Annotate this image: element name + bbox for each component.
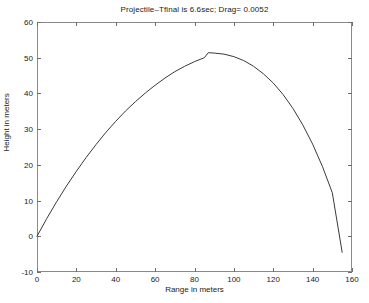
x-tick-label: 120: [267, 275, 280, 284]
plot-area: -100102030405060 020406080100120140160: [37, 22, 352, 272]
y-tick-label: 60: [24, 18, 33, 27]
x-tick-mark: [273, 268, 274, 272]
x-tick-mark-top: [352, 22, 353, 26]
x-tick-label: 160: [345, 275, 358, 284]
y-tick-mark-right: [348, 58, 352, 59]
x-tick-label: 0: [35, 275, 39, 284]
x-tick-mark: [352, 268, 353, 272]
y-tick-mark-right: [348, 129, 352, 130]
trajectory-polyline: [37, 53, 342, 253]
y-tick-mark: [37, 201, 41, 202]
x-tick-label: 60: [151, 275, 160, 284]
x-tick-label: 100: [227, 275, 240, 284]
x-tick-mark: [116, 268, 117, 272]
y-tick-mark-right: [348, 93, 352, 94]
y-tick-mark: [37, 272, 41, 273]
x-tick-label: 140: [306, 275, 319, 284]
y-tick-label: -10: [21, 268, 33, 277]
x-tick-mark: [155, 268, 156, 272]
x-axis-label: Range in meters: [37, 285, 352, 294]
y-tick-mark: [37, 236, 41, 237]
x-tick-mark-top: [273, 22, 274, 26]
y-tick-mark-right: [348, 272, 352, 273]
x-tick-mark-top: [76, 22, 77, 26]
figure-canvas: Projectile–Tfinal is 6.6sec; Drag= 0.005…: [0, 0, 369, 303]
x-tick-mark: [37, 268, 38, 272]
y-tick-mark-right: [348, 165, 352, 166]
x-tick-mark-top: [116, 22, 117, 26]
y-tick-mark: [37, 93, 41, 94]
y-tick-label: 40: [24, 89, 33, 98]
y-tick-label: 50: [24, 53, 33, 62]
x-tick-label: 40: [111, 275, 120, 284]
x-tick-label: 80: [190, 275, 199, 284]
y-tick-mark: [37, 165, 41, 166]
x-tick-mark: [76, 268, 77, 272]
y-tick-label: 20: [24, 160, 33, 169]
x-tick-mark-top: [37, 22, 38, 26]
y-axis-label: Height in meters: [2, 93, 11, 151]
y-tick-label: 0: [29, 232, 33, 241]
x-tick-mark: [195, 268, 196, 272]
chart-title: Projectile–Tfinal is 6.6sec; Drag= 0.005…: [37, 5, 352, 14]
x-tick-mark: [313, 268, 314, 272]
x-tick-mark-top: [155, 22, 156, 26]
trajectory-curve: [37, 22, 352, 272]
x-tick-mark: [234, 268, 235, 272]
x-tick-mark-top: [195, 22, 196, 26]
y-tick-mark-right: [348, 201, 352, 202]
x-tick-mark-top: [313, 22, 314, 26]
x-tick-mark-top: [234, 22, 235, 26]
y-tick-label: 10: [24, 196, 33, 205]
x-tick-label: 20: [72, 275, 81, 284]
y-tick-mark: [37, 58, 41, 59]
y-tick-label: 30: [24, 125, 33, 134]
y-tick-mark: [37, 129, 41, 130]
y-tick-mark-right: [348, 236, 352, 237]
